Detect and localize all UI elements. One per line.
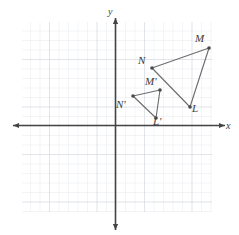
x-axis-label: x <box>226 121 230 131</box>
y-axis-label: y <box>108 7 112 17</box>
point-label-m-prime: M' <box>145 76 157 87</box>
vertex-n-prime <box>131 94 135 98</box>
point-label-m: M <box>195 33 204 44</box>
point-label-n-prime: N' <box>116 99 126 110</box>
point-label-n: N <box>138 55 145 66</box>
point-label-l-prime: L' <box>153 116 161 127</box>
grid-lines <box>22 22 212 212</box>
point-label-l: L <box>192 103 198 114</box>
coordinate-plane-figure: M N L M' N' L' x y <box>0 0 239 235</box>
vertex-m <box>207 46 211 50</box>
vertex-n <box>150 66 154 70</box>
vertex-m-prime <box>158 88 162 92</box>
